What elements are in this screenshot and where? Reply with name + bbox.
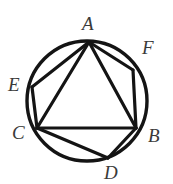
- vertex-label-B: B: [148, 126, 160, 145]
- vertex-label-A: A: [82, 14, 94, 33]
- segment-A-B: [89, 42, 136, 128]
- vertex-label-F: F: [142, 38, 154, 57]
- geometry-figure: A B C D E F: [0, 0, 173, 184]
- vertex-label-E: E: [8, 75, 20, 94]
- segment-C-E: [32, 87, 37, 128]
- vertex-label-D: D: [104, 163, 118, 182]
- segment-C-A: [37, 42, 89, 128]
- segment-F-B: [133, 70, 136, 128]
- circumscribed-circle: [27, 41, 147, 161]
- vertex-label-C: C: [12, 123, 25, 142]
- segment-D-C: [37, 128, 108, 158]
